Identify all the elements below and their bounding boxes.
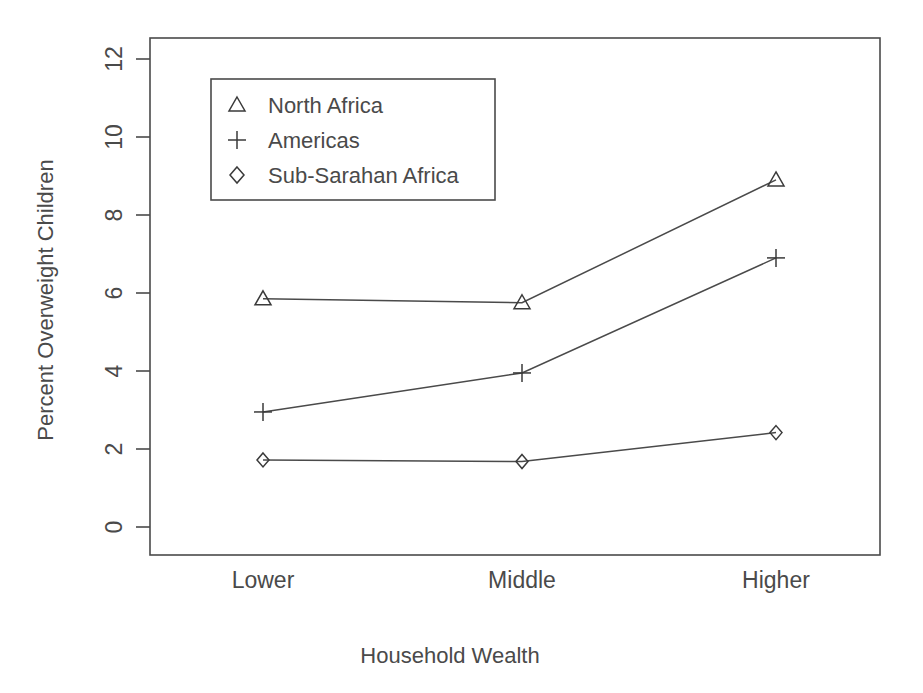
y-tick-label-0: 0 — [101, 521, 127, 534]
y-tick-label-4: 4 — [101, 364, 127, 377]
legend-label-sub-sarahan-africa: Sub-Sarahan Africa — [268, 163, 460, 188]
x-label-lower: Lower — [232, 567, 295, 593]
y-tick-label-8: 8 — [101, 209, 127, 222]
y-tick-label-12: 12 — [101, 46, 127, 72]
x-axis-category-labels: Lower Middle Higher — [232, 567, 811, 593]
y-axis-tick-labels: 12 10 8 6 4 2 0 — [101, 46, 127, 533]
triangle-marker-point — [768, 172, 784, 186]
chart-figure: 12 10 8 6 4 2 0 Percent Overweight Child… — [0, 0, 923, 693]
data-series-layer — [254, 172, 785, 469]
x-label-middle: Middle — [488, 567, 556, 593]
triangle-marker-point — [255, 291, 271, 305]
line-chart: 12 10 8 6 4 2 0 Percent Overweight Child… — [0, 0, 923, 693]
legend-label-north-africa: North Africa — [268, 93, 384, 118]
y-tick-label-10: 10 — [101, 124, 127, 150]
triangle-marker-point — [514, 295, 530, 309]
series-sub-sarahan-africa — [257, 426, 782, 469]
y-tick-label-2: 2 — [101, 443, 127, 456]
legend-label-americas: Americas — [268, 128, 360, 153]
x-axis-title: Household Wealth — [360, 643, 539, 668]
y-axis-ticks — [136, 59, 150, 527]
series-americas — [254, 249, 785, 421]
series-polyline — [263, 258, 776, 412]
chart-legend: North Africa Americas Sub-Sarahan Africa — [211, 79, 495, 200]
y-tick-label-6: 6 — [101, 287, 127, 300]
x-label-higher: Higher — [742, 567, 810, 593]
y-axis-title: Percent Overweight Children — [33, 159, 58, 440]
